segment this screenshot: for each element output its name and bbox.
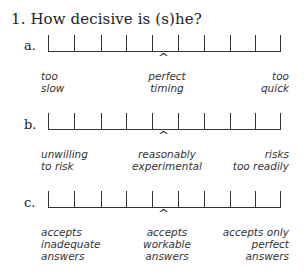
- scale-tick[interactable]: [126, 113, 127, 129]
- scale-tick[interactable]: [178, 113, 179, 129]
- scale-line[interactable]: [48, 113, 281, 130]
- question-title: 1. How decisive is (s)he?: [11, 10, 202, 28]
- anchor-center: reasonablyexperimental: [132, 148, 202, 172]
- scale-tick[interactable]: [48, 35, 49, 51]
- scale-tick[interactable]: [280, 191, 281, 207]
- marker-caret-icon: ^: [158, 207, 169, 220]
- scale-tick[interactable]: [48, 191, 49, 207]
- scale-tick[interactable]: [178, 191, 179, 207]
- scale-tick[interactable]: [101, 113, 102, 129]
- scale-letter: a.: [24, 38, 36, 53]
- scale-line[interactable]: [48, 191, 281, 208]
- scale-tick[interactable]: [255, 113, 256, 129]
- marker-caret-icon: ^: [158, 129, 169, 142]
- anchor-right: tooquick: [261, 70, 289, 94]
- scale-tick[interactable]: [152, 191, 153, 207]
- scale-tick[interactable]: [74, 113, 75, 129]
- scale-tick[interactable]: [152, 113, 153, 129]
- scale-tick[interactable]: [230, 113, 231, 129]
- scale-tick[interactable]: [230, 35, 231, 51]
- scale-tick[interactable]: [204, 191, 205, 207]
- scale-tick[interactable]: [178, 35, 179, 51]
- scale-tick[interactable]: [101, 191, 102, 207]
- scale-tick[interactable]: [230, 191, 231, 207]
- question-number: 1.: [11, 10, 26, 28]
- anchor-center: acceptsworkableanswers: [143, 226, 191, 262]
- anchor-left: acceptsinadequateanswers: [41, 226, 100, 262]
- scale-tick[interactable]: [204, 35, 205, 51]
- anchor-left: unwillingto risk: [41, 148, 88, 172]
- scale-tick[interactable]: [74, 35, 75, 51]
- anchor-right: accepts onlyperfectanswers: [223, 226, 289, 262]
- scale-line[interactable]: [48, 35, 281, 52]
- scale-letter: c.: [24, 195, 35, 210]
- scale-tick[interactable]: [74, 191, 75, 207]
- scale-tick[interactable]: [101, 35, 102, 51]
- scale-tick[interactable]: [126, 191, 127, 207]
- scale-tick[interactable]: [204, 113, 205, 129]
- scale-tick[interactable]: [280, 113, 281, 129]
- marker-caret-icon: ^: [158, 51, 169, 64]
- scale-tick[interactable]: [255, 35, 256, 51]
- anchor-center: perfecttiming: [148, 70, 186, 94]
- scale-letter: b.: [24, 117, 36, 132]
- scale-tick[interactable]: [280, 35, 281, 51]
- scale-tick[interactable]: [126, 35, 127, 51]
- scale-tick[interactable]: [255, 191, 256, 207]
- anchor-left: tooslow: [41, 70, 64, 94]
- scale-tick[interactable]: [152, 35, 153, 51]
- scale-tick[interactable]: [48, 113, 49, 129]
- question-text: How decisive is (s)he?: [30, 10, 201, 28]
- anchor-right: riskstoo readily: [233, 148, 289, 172]
